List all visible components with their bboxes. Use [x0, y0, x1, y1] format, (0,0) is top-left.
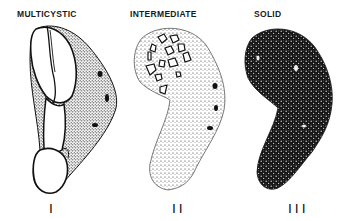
panel-numeral-iii: III	[288, 201, 309, 216]
kidney-intermediate	[134, 28, 225, 190]
panel-numeral-ii: II	[172, 201, 186, 216]
kidney-illustrations	[0, 0, 345, 221]
panel-numeral-i: I	[49, 201, 56, 216]
kidney-multicystic	[30, 26, 117, 193]
kidney-solid	[245, 29, 332, 189]
